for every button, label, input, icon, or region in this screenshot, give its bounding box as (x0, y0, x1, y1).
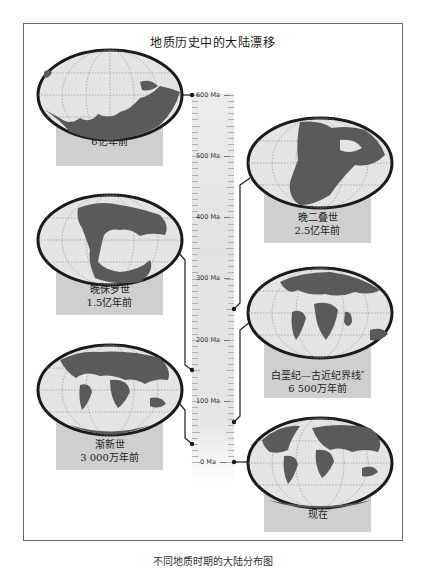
period-name: 晚侏罗世 (56, 283, 163, 296)
label-late-jurassic: 晚侏罗世 1.5亿年前 (56, 257, 163, 315)
period-name: 白垩纪—古近纪界线* (264, 366, 371, 382)
period-name: 前寒武纪晚期 (56, 122, 163, 135)
figure-title: 地质历史中的大陆漂移 (0, 33, 425, 50)
period-age: 6 500万年前 (264, 382, 371, 395)
period-name: 晚二叠世 (264, 211, 371, 224)
figure-caption: 不同地质时期的大陆分布图 (0, 553, 425, 568)
period-name: 渐新世 (56, 438, 163, 451)
label-k-pg-boundary: 白垩纪—古近纪界线* 6 500万年前 (264, 332, 371, 398)
tick-label-400: 400 Ma (182, 213, 244, 221)
label-present: 现在 (264, 490, 371, 532)
period-age: 2.5亿年前 (264, 224, 371, 237)
tick-label-100: 100 Ma (182, 397, 244, 405)
label-oligocene: 渐新世 3 000万年前 (56, 412, 163, 470)
period-age: 1.5亿年前 (56, 296, 163, 309)
period-age: 6亿年前 (56, 135, 163, 148)
period-name: 现在 (264, 508, 371, 521)
tick-label-600: 600 Ma (182, 91, 244, 99)
tick-label-200: 200 Ma (182, 336, 244, 344)
label-precambrian: 前寒武纪晚期 6亿年前 (56, 100, 163, 166)
tick-label-300: 300 Ma (182, 274, 244, 282)
tick-label-500: 500 Ma (182, 152, 244, 160)
tick-label-0: 0 Ma (182, 458, 244, 466)
label-late-permian: 晚二叠世 2.5亿年前 (264, 185, 371, 243)
period-age: 3 000万年前 (56, 451, 163, 464)
